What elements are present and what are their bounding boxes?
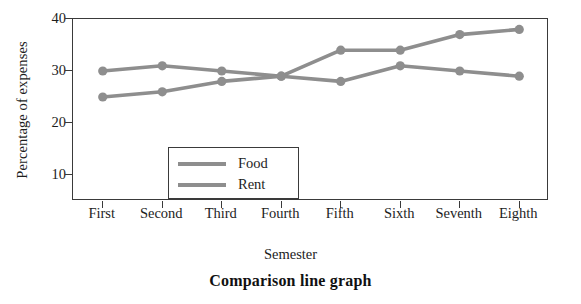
y-axis-tick [65, 18, 73, 19]
data-point-rent [217, 77, 226, 86]
legend-swatch-rent [178, 183, 226, 187]
x-axis-tick-label: Eighth [475, 206, 561, 221]
legend-label-food: Food [238, 156, 268, 171]
data-point-rent [396, 46, 405, 55]
data-point-food [98, 66, 107, 75]
y-axis-tick [65, 70, 73, 71]
legend-item-rent: Rent [169, 174, 298, 195]
chart-legend: Food Rent [168, 147, 299, 199]
y-axis-tick [65, 174, 73, 175]
y-axis-title: Percentage of expenses [14, 10, 34, 210]
chart-title: Comparison line graph [0, 272, 581, 290]
data-point-rent [277, 72, 286, 81]
y-axis-tick [65, 122, 73, 123]
data-point-food [336, 77, 345, 86]
data-point-rent [515, 25, 524, 34]
series-canvas [73, 19, 549, 201]
data-point-food [515, 72, 524, 81]
x-axis-title: Semester [0, 246, 581, 263]
legend-label-rent: Rent [238, 177, 265, 192]
plot-area: Food Rent [72, 18, 548, 200]
data-point-rent [336, 46, 345, 55]
y-axis-tick-label: 30 [36, 63, 66, 78]
data-point-rent [158, 87, 167, 96]
data-point-rent [455, 30, 464, 39]
y-axis-tick-label: 20 [36, 115, 66, 130]
data-point-food [158, 61, 167, 70]
chart-figure: Percentage of expenses 10203040 Food Ren… [0, 0, 581, 304]
legend-swatch-food [178, 162, 226, 166]
data-point-food [396, 61, 405, 70]
data-point-rent [98, 92, 107, 101]
y-axis-tick-label: 40 [36, 11, 66, 26]
data-point-food [217, 66, 226, 75]
legend-item-food: Food [169, 153, 298, 174]
data-point-food [455, 66, 464, 75]
y-axis-tick-label: 10 [36, 167, 66, 182]
